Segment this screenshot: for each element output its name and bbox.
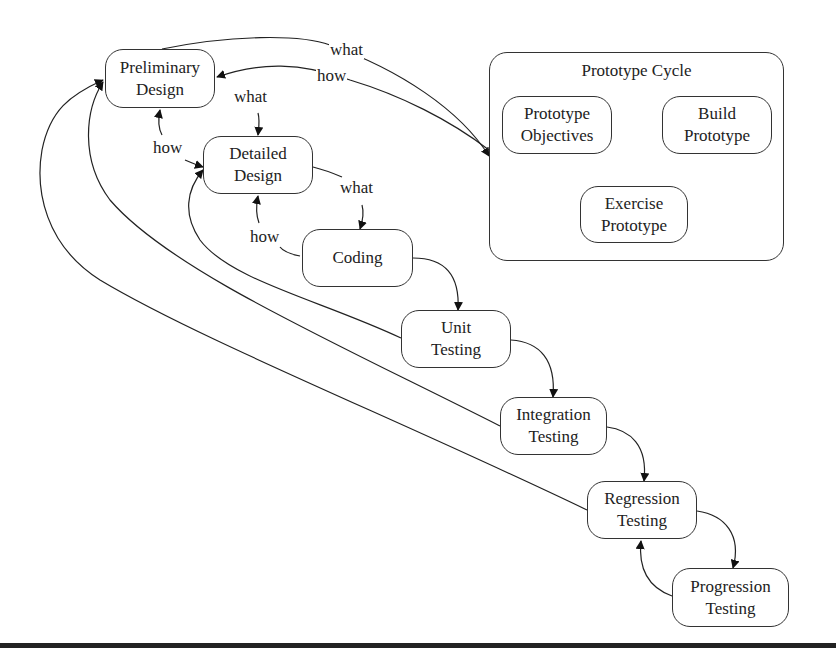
node-label: Unit	[441, 317, 471, 339]
node-label: Prototype	[524, 103, 590, 125]
edge-progression-to-regression	[641, 541, 672, 596]
edge-label-coding-dd-how: how	[249, 228, 280, 246]
node-regression-testing[interactable]: Regression Testing	[587, 481, 697, 539]
node-label: Prototype	[601, 215, 667, 237]
node-label: Testing	[529, 426, 579, 448]
edge-integration-to-regression	[607, 427, 645, 481]
node-exercise-prototype[interactable]: Exercise Prototype	[580, 186, 688, 243]
edge-coding-to-dd-how	[280, 247, 300, 256]
edge-regression-to-progression	[697, 511, 735, 568]
edge-pd-to-dd-what	[258, 113, 259, 135]
node-progression-testing[interactable]: Progression Testing	[672, 568, 789, 627]
edge-label-proto-pd-how: how	[316, 67, 347, 85]
edge-unit-to-integration	[511, 340, 553, 397]
node-detailed-design[interactable]: Detailed Design	[203, 136, 313, 194]
node-label: Design	[136, 79, 184, 101]
node-coding[interactable]: Coding	[302, 229, 413, 287]
node-label: Coding	[332, 247, 382, 269]
node-label: Preliminary	[120, 57, 200, 79]
node-label: Objectives	[521, 125, 594, 147]
node-label: Testing	[617, 510, 667, 532]
edge-label-pd-dd-what: what	[233, 88, 268, 106]
edge-label-dd-coding-what: what	[339, 179, 374, 197]
node-unit-testing[interactable]: Unit Testing	[401, 310, 511, 368]
node-prototype-objectives[interactable]: Prototype Objectives	[502, 96, 612, 154]
node-label: Regression	[604, 488, 680, 510]
node-label: Prototype	[684, 125, 750, 147]
edge-coding-to-unit	[413, 258, 458, 310]
prototype-cycle-title: Prototype Cycle	[490, 61, 783, 81]
node-label: Build	[698, 103, 736, 125]
node-label: Testing	[706, 598, 756, 620]
edge-dd-to-coding-what	[313, 167, 342, 177]
node-label: Exercise	[605, 193, 664, 215]
node-label: Detailed	[229, 143, 287, 165]
node-label: Testing	[431, 339, 481, 361]
edge-integration-to-pd	[88, 82, 500, 426]
edge-label-pd-proto-what: what	[329, 41, 364, 59]
node-label: Progression	[690, 576, 770, 598]
node-label: Integration	[516, 404, 591, 426]
node-label: Design	[234, 165, 282, 187]
edge-dd-to-pd-how	[159, 110, 162, 135]
edge-label-dd-pd-how: how	[152, 139, 183, 157]
node-integration-testing[interactable]: Integration Testing	[500, 397, 607, 455]
node-preliminary-design[interactable]: Preliminary Design	[105, 49, 215, 108]
page-divider-rule	[0, 643, 836, 648]
node-build-prototype[interactable]: Build Prototype	[662, 96, 772, 154]
